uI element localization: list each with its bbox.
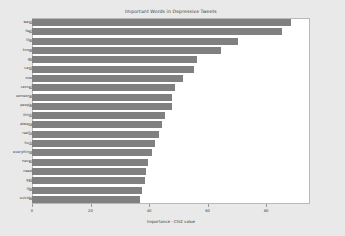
bar <box>32 66 194 73</box>
bar <box>32 56 197 63</box>
bar <box>32 94 172 101</box>
y-axis-tick <box>29 51 32 52</box>
y-axis-tick <box>29 97 32 98</box>
y-axis-tick <box>29 153 32 154</box>
x-axis-tick <box>149 204 150 207</box>
chart-figure: Important Words in Depressive Tweets Imp… <box>0 0 345 236</box>
bar <box>32 112 165 119</box>
y-axis-tick <box>29 78 32 79</box>
x-axis-tick-label: 0 <box>31 208 33 213</box>
bar <box>32 75 183 82</box>
bar <box>32 177 145 184</box>
x-axis-tick-label: 40 <box>147 208 152 213</box>
bar <box>32 196 140 203</box>
y-axis-tick <box>29 41 32 42</box>
bar <box>32 131 159 138</box>
y-axis-tick <box>29 181 32 182</box>
y-axis-tick <box>29 171 32 172</box>
y-axis-tick <box>29 88 32 89</box>
x-axis-tick-label: 80 <box>264 208 269 213</box>
x-axis-label: Importance - Chi2 value <box>32 219 310 224</box>
bar <box>32 103 172 110</box>
bar <box>32 19 291 26</box>
bar <box>32 84 175 91</box>
y-axis-tick <box>29 23 32 24</box>
y-axis-tick <box>29 134 32 135</box>
bar-series <box>0 0 345 236</box>
x-axis-tick <box>91 204 92 207</box>
y-axis-tick <box>29 144 32 145</box>
y-axis-tick <box>29 60 32 61</box>
y-axis-tick <box>29 106 32 107</box>
bar <box>32 28 282 35</box>
y-axis-tick <box>29 69 32 70</box>
bar <box>32 149 152 156</box>
bar <box>32 47 221 54</box>
y-axis-tick <box>29 32 32 33</box>
y-axis-tick <box>29 125 32 126</box>
y-axis-tick <box>29 116 32 117</box>
y-axis-tick <box>29 190 32 191</box>
x-axis-tick <box>266 204 267 207</box>
bar <box>32 159 148 166</box>
y-axis-tick <box>29 199 32 200</box>
x-axis-tick-label: 20 <box>88 208 93 213</box>
bar <box>32 187 142 194</box>
bar <box>32 38 238 45</box>
bar <box>32 168 146 175</box>
x-axis-tick <box>208 204 209 207</box>
bar <box>32 121 162 128</box>
x-axis-tick-label: 60 <box>205 208 210 213</box>
y-axis-tick <box>29 162 32 163</box>
x-axis-tick <box>32 204 33 207</box>
bar <box>32 140 155 147</box>
